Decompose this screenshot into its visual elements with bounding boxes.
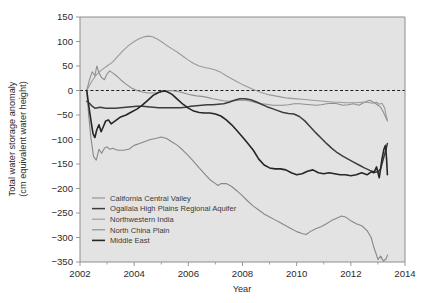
x-axis-ticks: 2002200420062008201020122014 (69, 262, 416, 279)
x-tick-label: 2014 (394, 268, 416, 279)
y-tick-label: 100 (57, 36, 73, 47)
x-tick-label: 2010 (286, 268, 307, 279)
x-tick-label: 2008 (232, 268, 253, 279)
water-storage-anomaly-line-chart: Total water storage anomaly (cm equivale… (0, 0, 429, 303)
legend-label: Middle East (110, 236, 151, 245)
legend-label: North China Plain (110, 226, 170, 235)
legend-label: California Central Valley (110, 194, 191, 203)
y-tick-label: −350 (51, 256, 73, 267)
x-tick-label: 2004 (123, 268, 145, 279)
x-tick-label: 2012 (340, 268, 361, 279)
y-tick-label: −150 (51, 158, 73, 169)
y-axis-label-line1: Total water storage anomaly (7, 81, 17, 196)
legend-label: Ogallala High Plains Regional Aquifer (110, 204, 237, 213)
x-axis-label: Year (233, 284, 252, 294)
y-tick-label: −300 (51, 232, 73, 243)
chart-figure: Total water storage anomaly (cm equivale… (0, 0, 429, 303)
y-tick-label: −200 (51, 183, 73, 194)
x-tick-label: 2002 (69, 268, 90, 279)
y-tick-label: 0 (68, 85, 73, 96)
legend-item: Ogallala High Plains Regional Aquifer (92, 204, 237, 213)
y-axis-label: Total water storage anomaly (cm equivale… (7, 81, 28, 197)
legend-label: Northwestern India (110, 215, 175, 224)
y-tick-label: −250 (51, 207, 73, 218)
y-tick-label: 50 (62, 60, 73, 71)
y-axis-ticks: 150100500−50−100−150−200−250−300−350 (51, 11, 80, 267)
y-axis-label-line2: (cm equivalent water height) (18, 81, 28, 196)
y-tick-label: −100 (51, 134, 73, 145)
x-tick-label: 2006 (178, 268, 199, 279)
y-tick-label: 150 (57, 11, 73, 22)
y-tick-label: −50 (57, 109, 73, 120)
